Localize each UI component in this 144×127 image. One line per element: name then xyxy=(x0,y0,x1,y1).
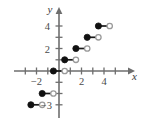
x-tick-label-2: 2 xyxy=(79,76,84,87)
y-axis-arrow-icon xyxy=(56,7,63,14)
y-axis-label: y xyxy=(47,3,53,15)
closed-endpoint-dot xyxy=(73,45,79,51)
closed-endpoint-dot xyxy=(84,34,90,40)
y-axis xyxy=(56,7,63,118)
x-axis-label: x xyxy=(131,70,137,82)
closed-endpoint-dot xyxy=(50,68,56,74)
step-function-figure: 4 2 −3 −2 2 4 y x xyxy=(0,0,144,127)
closed-endpoint-dot xyxy=(62,57,68,63)
y-tick-label-4: 4 xyxy=(45,21,51,32)
open-endpoint-dot xyxy=(62,68,67,73)
y-tick-label--3: −3 xyxy=(41,100,52,111)
closed-endpoint-dot xyxy=(95,23,101,29)
open-endpoint-dot xyxy=(107,23,112,28)
step-segments xyxy=(28,23,113,108)
step-segment xyxy=(39,90,56,96)
closed-endpoint-dot xyxy=(39,90,45,96)
open-endpoint-dot xyxy=(73,57,78,62)
step-segment xyxy=(73,45,90,51)
plot-canvas: 4 2 −3 −2 2 4 y x xyxy=(0,0,144,127)
open-endpoint-dot xyxy=(85,46,90,51)
x-axis xyxy=(14,68,135,75)
x-tick-label-4: 4 xyxy=(101,76,107,87)
step-segment xyxy=(62,57,79,63)
open-endpoint-dot xyxy=(96,35,101,40)
closed-endpoint-dot xyxy=(28,102,34,108)
open-endpoint-dot xyxy=(51,91,56,96)
y-tick-label-2: 2 xyxy=(45,44,50,55)
x-tick-label--2: −2 xyxy=(31,76,42,87)
step-segment xyxy=(84,34,101,40)
step-segment xyxy=(95,23,112,29)
